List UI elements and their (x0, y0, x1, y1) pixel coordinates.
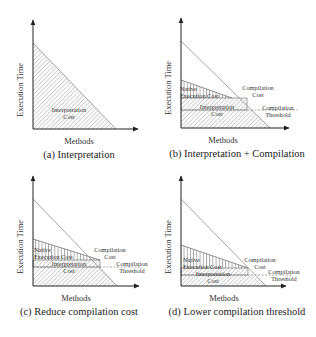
interpretation-cost-label: Interpretation Cost (44, 260, 94, 274)
x-axis-label: Methods (0, 136, 158, 146)
x-axis-label: Methods (0, 293, 155, 303)
panel-a-interpretation: Execution Time Interpretation Cost Metho… (0, 0, 158, 168)
interpretation-cost-label: Interpretation Cost (188, 270, 238, 284)
panel-caption: (a) Interpretation (0, 149, 158, 160)
y-axis-label: Execution Time (15, 63, 25, 117)
native-execution-cost-label: Native Execution Cost (180, 85, 219, 99)
y-axis-label: Execution Time (15, 220, 25, 274)
panel-caption: (d) Lower compilation threshold (158, 306, 316, 317)
y-axis-label: Execution Time (163, 61, 173, 115)
interpretation-cost-label: Interpretation Cost (44, 106, 94, 120)
native-execution-cost-label: Native Execution Cost (183, 256, 222, 270)
compilation-threshold-label: Compilation Threshold (112, 260, 152, 274)
compilation-cost-label: Compilation Cost (238, 84, 278, 98)
panel-d-lower-compilation-threshold: Execution Time Native Execution Cost Int… (158, 168, 316, 336)
panel-caption: (b) Interpretation + Compilation (158, 148, 316, 159)
panel-caption: (c) Reduce compilation cost (0, 306, 158, 317)
panel-c-reduce-compilation-cost: Execution Time Native Execution Cost Int… (0, 168, 158, 336)
native-execution-cost-label: Native Execution Cost (34, 246, 73, 260)
y-axis-label: Execution Time (163, 220, 173, 274)
panel-b-interpretation-compilation: Execution Time Native Execution Cost Int… (158, 0, 316, 168)
compilation-threshold-label: Compilation Threshold (258, 104, 298, 118)
compilation-cost-label: Compilation Cost (90, 246, 130, 260)
x-axis-label: Methods (144, 135, 302, 145)
compilation-threshold-label: Compilation Threshold (264, 268, 304, 282)
interpretation-cost-label: Interpretation Cost (192, 103, 242, 117)
x-axis-label: Methods (145, 293, 303, 303)
